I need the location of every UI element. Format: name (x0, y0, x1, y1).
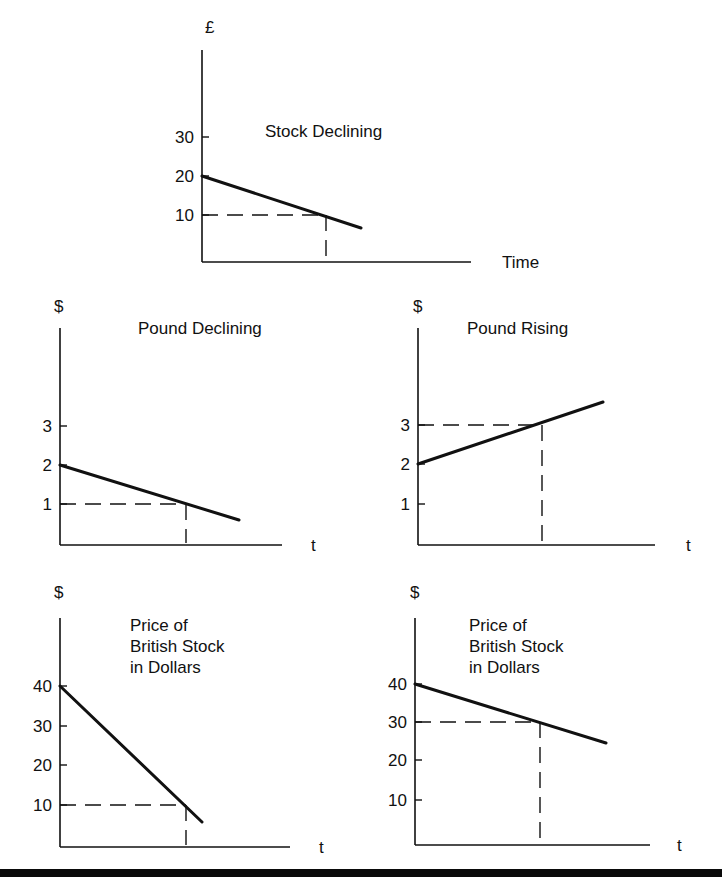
y-tick-label: 3 (43, 417, 52, 436)
y-tick-label: 10 (388, 791, 407, 810)
series-line (418, 402, 603, 464)
x-axis-label: t (677, 836, 682, 855)
y-tick-label: 40 (388, 675, 407, 694)
chart-title-line: in Dollars (469, 658, 540, 677)
x-axis-label: t (686, 536, 691, 555)
bottom-rule (0, 869, 722, 877)
y-unit-label: $ (54, 297, 64, 316)
y-tick-label: 10 (33, 796, 52, 815)
chart-title: Pound Declining (138, 319, 262, 338)
chart-title: Stock Declining (265, 122, 382, 141)
y-tick-label: 30 (388, 713, 407, 732)
y-tick-label: 3 (401, 416, 410, 435)
chart-title-line: in Dollars (130, 658, 201, 677)
x-axis-label: t (319, 838, 324, 857)
series-line (415, 684, 606, 743)
chart-british-stock-pound-rising: 40302010$tPrice ofBritish Stockin Dollar… (388, 583, 682, 855)
chart-title-line: British Stock (130, 637, 225, 656)
chart-pound-rising: 321$tPound Rising (401, 297, 691, 555)
y-tick-label: 1 (43, 495, 52, 514)
figure-canvas: 302010£TimeStock Declining321$tPound Dec… (0, 0, 722, 883)
y-tick-label: 30 (175, 128, 194, 147)
chart-stock: 302010£TimeStock Declining (175, 18, 539, 272)
x-axis-label: Time (502, 253, 539, 272)
y-tick-label: 20 (388, 751, 407, 770)
chart-title-line: Price of (130, 616, 188, 635)
chart-title-line: British Stock (469, 637, 564, 656)
y-unit-label: $ (410, 583, 420, 602)
y-tick-label: 1 (401, 495, 410, 514)
chart-british-stock-pound-declining: 40302010$tPrice ofBritish Stockin Dollar… (33, 583, 324, 857)
series-line (60, 686, 202, 822)
y-tick-label: 2 (401, 455, 410, 474)
x-axis-label: t (311, 536, 316, 555)
y-tick-label: 30 (33, 717, 52, 736)
series-line (60, 465, 239, 520)
chart-pound-declining: 321$tPound Declining (43, 297, 316, 555)
y-unit-label: £ (205, 18, 215, 37)
chart-title: Pound Rising (467, 319, 568, 338)
y-tick-label: 2 (43, 456, 52, 475)
y-tick-label: 10 (175, 206, 194, 225)
y-unit-label: $ (413, 297, 423, 316)
y-tick-label: 20 (175, 167, 194, 186)
series-line (202, 176, 361, 228)
y-tick-label: 40 (33, 677, 52, 696)
chart-title-line: Price of (469, 616, 527, 635)
y-tick-label: 20 (33, 756, 52, 775)
y-unit-label: $ (54, 583, 64, 602)
